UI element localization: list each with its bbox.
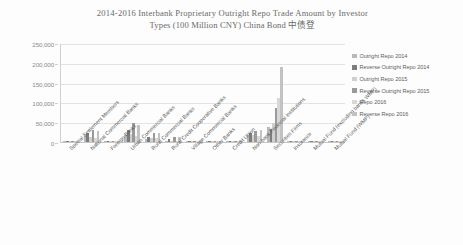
bar-group bbox=[145, 44, 161, 142]
repo-trade-amount-bar-chart: 2014-2016 Interbank Proprietary Outright… bbox=[0, 0, 463, 245]
y-axis-tick-mark bbox=[55, 103, 58, 104]
legend-item[interactable]: Reverse Outright Repo 2014 bbox=[352, 62, 460, 74]
legend-swatch-icon bbox=[352, 100, 357, 105]
legend-label: Reverse Outright Repo 2014 bbox=[360, 64, 430, 70]
bar-group bbox=[247, 44, 263, 142]
legend-swatch-icon bbox=[352, 65, 357, 70]
bar-group bbox=[308, 44, 324, 142]
y-axis-tick-label: 0 bbox=[51, 140, 54, 147]
chart-title-line-2: Types (100 Million CNY) China Bond 中债登 bbox=[55, 20, 410, 32]
y-axis-tick-label: 150,000 bbox=[32, 80, 54, 87]
y-axis-tick-label: 200,000 bbox=[32, 60, 54, 67]
bar bbox=[97, 131, 100, 142]
y-axis-tick-mark bbox=[55, 143, 58, 144]
bar bbox=[239, 141, 242, 142]
y-axis-tick-label: 250,000 bbox=[32, 41, 54, 48]
plot-area bbox=[60, 44, 345, 143]
bar bbox=[321, 141, 324, 142]
y-axis: 050,000100,000150,000200,000250,000 bbox=[0, 38, 58, 150]
legend-item[interactable]: Outright Repo 2014 bbox=[352, 50, 460, 62]
y-axis-tick-mark bbox=[55, 64, 58, 65]
bar bbox=[260, 130, 263, 142]
y-axis-tick-label: 50,000 bbox=[36, 120, 54, 127]
bar bbox=[219, 141, 222, 142]
bar bbox=[199, 141, 202, 142]
bar bbox=[341, 141, 344, 142]
bar bbox=[300, 141, 303, 142]
legend-label: Outright Repo 2015 bbox=[360, 76, 408, 82]
bar-group bbox=[104, 44, 120, 142]
bar-group bbox=[206, 44, 222, 142]
legend-swatch-icon bbox=[352, 88, 357, 93]
bar-group bbox=[124, 44, 140, 142]
bar-group bbox=[63, 44, 79, 142]
bar-group bbox=[84, 44, 100, 142]
bar-group bbox=[267, 44, 283, 142]
bar bbox=[178, 137, 181, 142]
y-axis-tick-mark bbox=[55, 44, 58, 45]
bar-group bbox=[328, 44, 344, 142]
bar-group bbox=[226, 44, 242, 142]
bar-group bbox=[165, 44, 181, 142]
y-axis-tick-label: 100,000 bbox=[32, 100, 54, 107]
bar bbox=[76, 141, 79, 142]
legend-item[interactable]: Repo 2016 bbox=[352, 96, 460, 108]
legend-item[interactable]: Reverse Outright Repo 2015 bbox=[352, 85, 460, 97]
bar bbox=[137, 125, 140, 142]
legend-swatch-icon bbox=[352, 112, 357, 117]
legend-label: Repo 2016 bbox=[360, 99, 387, 105]
legend-swatch-icon bbox=[352, 54, 357, 59]
legend-label: Outright Repo 2014 bbox=[360, 53, 408, 59]
bar bbox=[117, 141, 120, 142]
bar bbox=[158, 133, 161, 143]
bar-group bbox=[287, 44, 303, 142]
bar bbox=[280, 67, 283, 142]
y-axis-tick-mark bbox=[55, 123, 58, 124]
legend-item[interactable]: Outright Repo 2015 bbox=[352, 73, 460, 85]
legend-swatch-icon bbox=[352, 77, 357, 82]
legend-label: Reverse Repo 2016 bbox=[360, 111, 409, 117]
chart-title: 2014-2016 Interbank Proprietary Outright… bbox=[55, 8, 410, 31]
y-axis-tick-mark bbox=[55, 84, 58, 85]
chart-legend: Outright Repo 2014Reverse Outright Repo … bbox=[352, 50, 460, 120]
chart-title-line-1: 2014-2016 Interbank Proprietary Outright… bbox=[55, 8, 410, 20]
legend-item[interactable]: Reverse Repo 2016 bbox=[352, 108, 460, 120]
bar-group bbox=[186, 44, 202, 142]
legend-label: Reverse Outright Repo 2015 bbox=[360, 88, 430, 94]
